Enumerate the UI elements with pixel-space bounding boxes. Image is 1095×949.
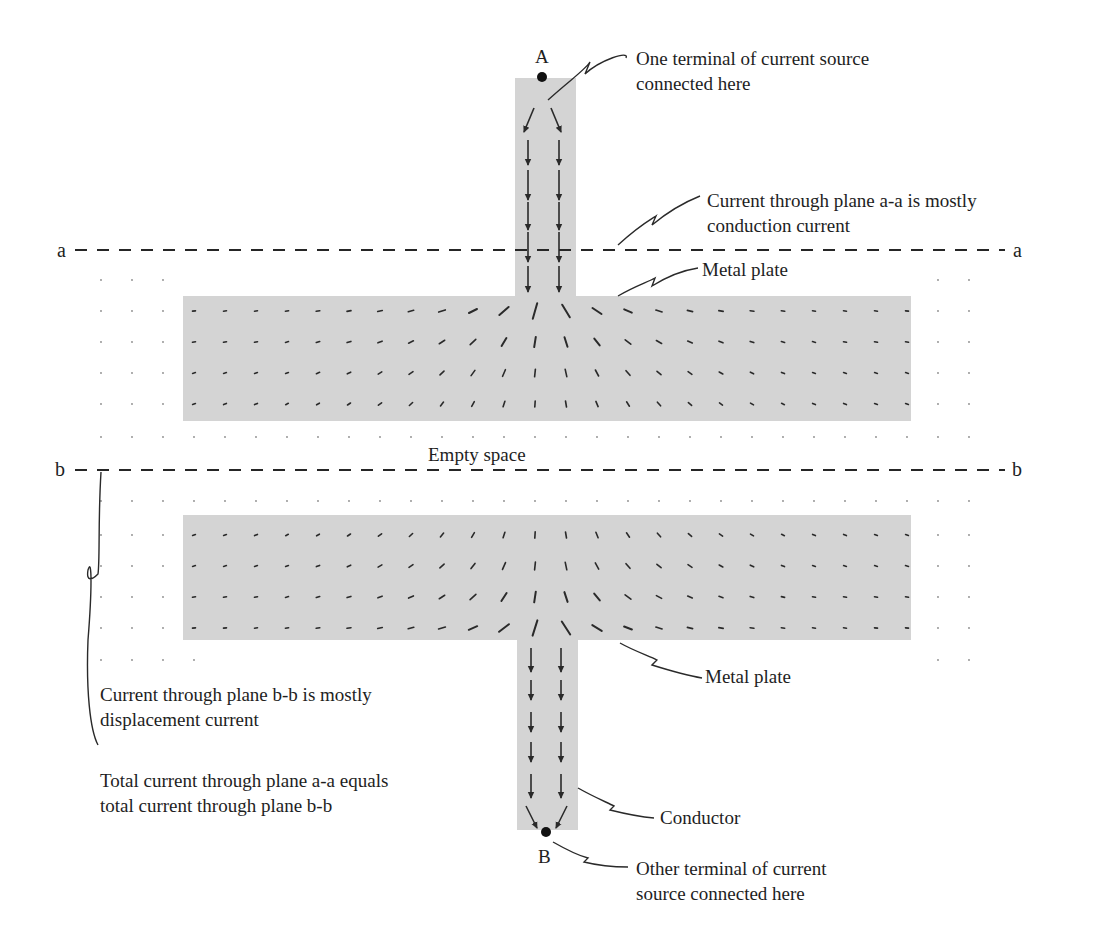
bottom-plate-note: Metal plate [705,664,791,689]
plane-b-note-line1: Current through plane b-b is mostly [100,682,372,707]
leader-top-plate [618,268,698,296]
terminal-b-note-line1: Other terminal of current [636,856,826,881]
leader-plane-a [618,196,700,245]
terminal-b-note-line2: source connected here [636,881,826,906]
conductor-note: Conductor [660,805,740,830]
plane-a-note-line1: Current through plane a-a is mostly [707,188,977,213]
top-metal-plate [183,296,911,421]
leader-plane-b [87,472,101,745]
bottom-connector [517,638,578,830]
terminal-b-dot [541,827,551,837]
terminal-a-note: One terminal of current source connected… [636,46,869,96]
total-current-note-line2: total current through plane b-b [100,793,388,818]
terminal-a-note-line1: One terminal of current source [636,46,869,71]
plane-a-note-line2: conduction current [707,213,977,238]
plane-a-note: Current through plane a-a is mostly cond… [707,188,977,238]
leader-conductor [578,788,654,818]
leader-lines [87,55,702,867]
terminal-a-dot [537,72,547,82]
terminal-b-note: Other terminal of current source connect… [636,856,826,906]
plane-a-left-label: a [57,238,66,263]
terminal-b-label: B [538,844,551,869]
empty-space-label: Empty space [428,442,526,467]
leader-bottom-plate [620,643,702,678]
plane-b-note-line2: displacement current [100,707,372,732]
bottom-metal-plate [183,515,911,640]
plane-a-right-label: a [1013,238,1022,263]
plane-b-left-label: b [55,457,65,482]
total-current-note-line1: Total current through plane a-a equals [100,768,388,793]
terminal-a-note-line2: connected here [636,71,869,96]
terminal-a-label: A [535,44,549,69]
total-current-note: Total current through plane a-a equals t… [100,768,388,818]
top-connector [515,78,576,298]
plane-b-note: Current through plane b-b is mostly disp… [100,682,372,732]
top-plate-note: Metal plate [702,257,788,282]
leader-terminal-b [553,842,628,867]
plane-b-right-label: b [1012,457,1022,482]
